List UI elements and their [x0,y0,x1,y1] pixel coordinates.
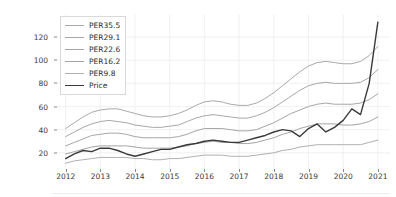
matplotlib-figure: 20406080100120 2012201320142015201620172… [0,4,396,194]
legend-label: PER22.6 [89,44,120,55]
legend-line-swatch [65,25,84,26]
legend-line-swatch [65,61,84,62]
x-tick-label: 2017 [230,172,249,181]
legend-item-price: Price [65,80,120,91]
legend-item-per9-8: PER9.8 [65,68,120,79]
legend-item-per29-1: PER29.1 [65,32,120,43]
x-tick-label: 2020 [334,172,353,181]
y-tick-label: 100 [34,56,48,65]
legend-label: PER29.1 [89,32,120,43]
legend-label: PER35.5 [89,20,120,31]
x-tick-label: 2012 [56,172,75,181]
cell-divider [52,193,390,194]
y-tick-label: 80 [38,79,48,88]
x-tick-label: 2019 [299,172,318,181]
legend-line-swatch [65,85,84,86]
y-tick-label: 40 [38,125,48,134]
y-tick-label: 120 [34,33,48,42]
legend-item-per22-6: PER22.6 [65,44,120,55]
legend-label: Price [89,80,107,91]
y-axis-tick-labels: 20406080100120 [0,14,52,169]
x-tick-label: 2016 [195,172,214,181]
y-tick-label: 20 [38,148,48,157]
x-tick-label: 2015 [160,172,179,181]
x-tick-label: 2013 [91,172,110,181]
x-tick-label: 2018 [264,172,283,181]
legend-item-per35-5: PER35.5 [65,20,120,31]
legend-item-per16-2: PER16.2 [65,56,120,67]
legend-label: PER9.8 [89,68,115,79]
legend-line-swatch [65,73,84,74]
x-tick-label: 2014 [125,172,144,181]
x-tick-label: 2021 [368,172,387,181]
x-axis-tick-labels: 2012201320142015201620172018201920202021 [57,172,390,188]
legend-line-swatch [65,37,84,38]
chart-legend: PER35.5PER29.1PER22.6PER16.2PER9.8Price [60,16,126,95]
y-tick-label: 60 [38,102,48,111]
legend-label: PER16.2 [89,56,120,67]
legend-line-swatch [65,49,84,50]
series-line-per9-8 [66,140,378,163]
notebook-output-cell: Out 20406080100120 201220132014201520162… [0,0,396,197]
